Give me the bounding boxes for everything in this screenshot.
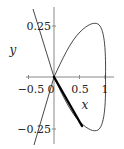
parametric-plot: 0.25 −0.25 −0.5 0 0.5 1 x y [0, 0, 124, 149]
x-tick-label-1: 1 [102, 83, 109, 96]
x-axis-label: x [82, 98, 89, 112]
x-tick-label-0: 0 [48, 83, 55, 96]
y-tick-label-025: 0.25 [27, 20, 52, 33]
y-tick-label-neg025: −0.25 [17, 123, 51, 136]
x-tick-label-neg05: −0.5 [18, 83, 45, 96]
x-tick-label-05: 0.5 [71, 83, 89, 96]
y-axis-label: y [9, 43, 17, 57]
